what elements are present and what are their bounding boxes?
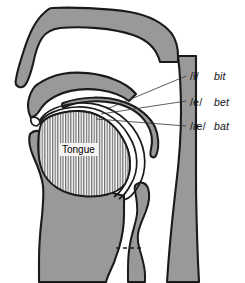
larynx [128, 183, 149, 282]
vocal-tract-diagram: /i/bit /e/bet /æ/bat Tongue [0, 0, 245, 283]
tongue-body [38, 111, 130, 197]
pharyngeal-back-wall [167, 56, 199, 282]
vocal-tract-illustration [0, 0, 245, 283]
